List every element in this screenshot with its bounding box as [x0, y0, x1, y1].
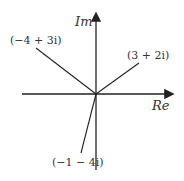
vector-label-3-plus-2i: (3 + 2i): [127, 49, 169, 62]
complex-plane-diagram: Im Re (3 + 2i) (−4 + 3i) (−1 − 4i): [0, 0, 184, 181]
vector-label-minus1-minus-4i: (−1 − 4i): [52, 156, 104, 169]
vector-minus4-plus-3i: [36, 48, 96, 94]
real-axis-label: Re: [151, 98, 170, 113]
vector-minus1-minus-4i: [81, 94, 96, 153]
vector-3-plus-2i: [96, 63, 139, 94]
vector-label-minus4-plus-3i: (−4 + 3i): [10, 34, 62, 47]
imaginary-axis-label: Im: [74, 14, 92, 29]
